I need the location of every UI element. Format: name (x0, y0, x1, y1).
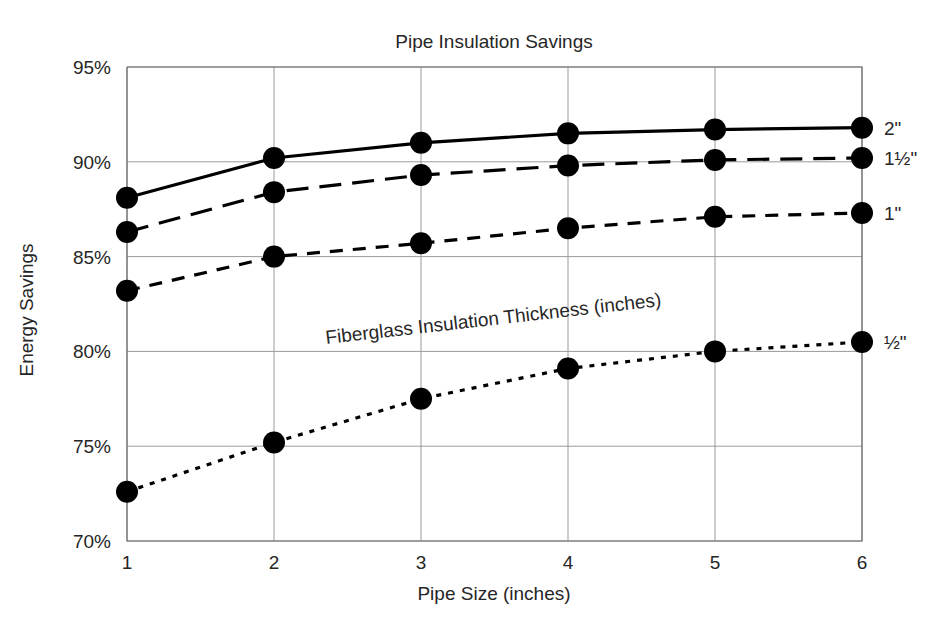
data-point-marker (851, 147, 873, 169)
y-tick-label: 75% (73, 436, 111, 457)
data-point-marker (116, 187, 138, 209)
data-point-marker (263, 246, 285, 268)
y-axis-title: Energy Savings (16, 243, 37, 376)
data-point-marker (557, 357, 579, 379)
data-point-marker (410, 232, 432, 254)
y-tick-label: 70% (73, 531, 111, 552)
data-point-marker (851, 117, 873, 139)
chart-title: Pipe Insulation Savings (395, 31, 593, 52)
x-tick-label: 4 (563, 552, 574, 573)
data-point-marker (263, 181, 285, 203)
series-label: 1" (884, 203, 901, 224)
data-point-marker (410, 164, 432, 186)
data-point-marker (263, 147, 285, 169)
data-point-marker (557, 122, 579, 144)
series-label: 2" (884, 118, 901, 139)
data-point-marker (704, 340, 726, 362)
data-point-marker (557, 155, 579, 177)
y-tick-label: 90% (73, 152, 111, 173)
y-tick-label: 80% (73, 341, 111, 362)
x-tick-label: 1 (122, 552, 133, 573)
data-point-marker (116, 481, 138, 503)
data-point-marker (410, 388, 432, 410)
pipe-insulation-savings-chart: Pipe Insulation Savings 70%75%80%85%90%9… (0, 0, 942, 631)
x-tick-label: 5 (710, 552, 721, 573)
data-point-marker (704, 206, 726, 228)
x-tick-label: 2 (269, 552, 280, 573)
data-point-marker (410, 132, 432, 154)
data-point-marker (263, 431, 285, 453)
y-tick-label: 85% (73, 247, 111, 268)
data-point-marker (851, 202, 873, 224)
data-point-marker (704, 119, 726, 141)
data-point-marker (557, 217, 579, 239)
data-point-marker (116, 280, 138, 302)
series-label: 1½" (884, 148, 917, 169)
data-point-marker (116, 221, 138, 243)
x-axis-title: Pipe Size (inches) (417, 583, 570, 604)
x-tick-label: 6 (857, 552, 868, 573)
x-tick-label: 3 (416, 552, 427, 573)
data-point-marker (851, 331, 873, 353)
data-point-marker (704, 149, 726, 171)
chart-container: Pipe Insulation Savings 70%75%80%85%90%9… (0, 0, 942, 631)
y-tick-label: 95% (73, 57, 111, 78)
series-label: ½" (884, 332, 907, 353)
